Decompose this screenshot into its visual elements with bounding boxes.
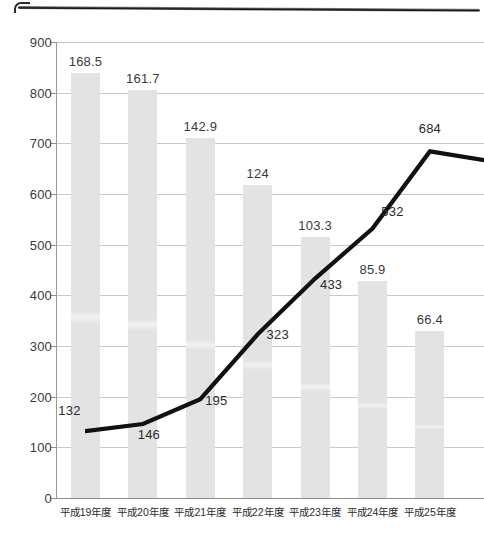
bar-value-label: 142.9	[184, 119, 218, 134]
y-axis-line	[56, 42, 57, 499]
y-tick-label-700: 700	[6, 136, 52, 151]
line-value-label: 684	[419, 121, 441, 136]
line-value-label: 323	[267, 327, 289, 342]
y-tick-label-500: 500	[6, 237, 52, 252]
x-axis-line	[56, 498, 484, 499]
y-tick-label-900: 900	[6, 35, 52, 50]
bar	[186, 138, 215, 498]
bar-value-label: 168.5	[69, 54, 103, 69]
line-value-label: 132	[58, 403, 80, 418]
y-tick-label-800: 800	[6, 85, 52, 100]
y-tick-label-300: 300	[6, 339, 52, 354]
line-value-label: 433	[320, 277, 342, 292]
x-tick-label: 平成22年度	[232, 504, 284, 519]
x-tick-label: 平成23年度	[289, 504, 341, 519]
y-tick-label-100: 100	[6, 440, 52, 455]
chart-figure: 0100200300400500600700800900 168.5161.71…	[0, 0, 484, 545]
bar	[71, 73, 100, 498]
bar-value-label: 85.9	[359, 262, 385, 277]
chart-y-axis: 0100200300400500600700800900	[0, 0, 52, 545]
bar-value-label: 66.4	[417, 312, 443, 327]
y-tick-label-600: 600	[6, 187, 52, 202]
x-tick-label: 平成19年度	[60, 504, 112, 519]
bar-value-label: 161.7	[126, 71, 160, 86]
line-value-label: 532	[381, 204, 403, 219]
gridline-900	[56, 42, 484, 43]
bar-value-label: 103.3	[298, 218, 332, 233]
x-tick-label: 平成25年度	[404, 504, 456, 519]
x-tick-label: 平成24年度	[347, 504, 399, 519]
gridline-800	[56, 93, 484, 94]
x-tick-label: 平成20年度	[117, 504, 169, 519]
y-tick-label-400: 400	[6, 288, 52, 303]
line-value-label: 195	[205, 393, 227, 408]
line-value-label: 146	[138, 427, 160, 442]
y-tick-label-0: 0	[6, 491, 52, 506]
bar	[358, 281, 387, 498]
gridline-700	[56, 143, 484, 144]
x-tick-label: 平成21年度	[174, 504, 226, 519]
y-tick-label-200: 200	[6, 389, 52, 404]
bar-value-label: 124	[247, 166, 269, 181]
bar	[415, 331, 444, 498]
